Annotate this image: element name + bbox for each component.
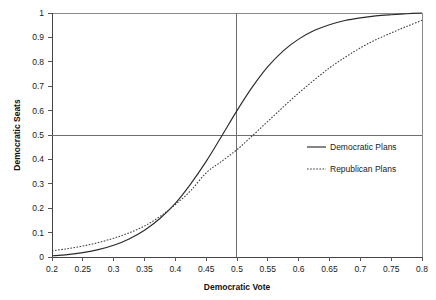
legend-label: Democratic Plans [330,142,397,152]
chart-page: 0 0.1 0.2 0.3 0.4 0.5 0.6 0.7 0.8 0.9 1 [0,0,436,300]
y-tick-label: 0 [39,252,44,262]
legend-item-republican-plans[interactable]: Republican Plans [307,164,396,174]
x-tick-label: 0.7 [354,264,366,274]
y-tick-label: 0.5 [32,130,44,140]
y-tick-label: 0.7 [32,81,44,91]
y-tick-label: 0.9 [32,32,44,42]
x-tick-label: 0.35 [136,264,153,274]
y-tick-label: 0.3 [32,179,44,189]
x-tick-label: 0.45 [198,264,215,274]
series-line-democratic-plans [52,13,422,256]
legend-item-democratic-plans[interactable]: Democratic Plans [307,142,397,152]
x-tick-label: 0.6 [293,264,305,274]
legend-label: Republican Plans [330,164,396,174]
x-tick-label: 0.8 [416,264,428,274]
reference-lines [52,13,422,257]
x-axis-ticks [52,257,422,261]
y-axis-title: Democratic Seats [12,99,22,171]
x-tick-label: 0.75 [383,264,400,274]
y-axis-tick-labels: 0 0.1 0.2 0.3 0.4 0.5 0.6 0.7 0.8 0.9 1 [32,8,44,262]
y-tick-label: 0.2 [32,203,44,213]
x-tick-label: 0.3 [108,264,120,274]
y-tick-label: 0.6 [32,106,44,116]
y-tick-label: 1 [39,8,44,18]
x-tick-label: 0.55 [260,264,277,274]
x-tick-label: 0.5 [231,264,243,274]
x-tick-label: 0.25 [75,264,92,274]
x-tick-label: 0.65 [321,264,338,274]
y-tick-label: 0.1 [32,228,44,238]
y-axis-ticks [48,13,52,257]
x-axis-title: Democratic Vote [204,282,271,292]
x-tick-label: 0.4 [169,264,181,274]
x-tick-label: 0.2 [46,264,58,274]
series-line-republican-plans [52,20,422,251]
x-axis-tick-labels: 0.2 0.25 0.3 0.35 0.4 0.45 0.5 0.55 0.6 … [46,264,428,274]
y-tick-label: 0.8 [32,57,44,67]
line-chart: 0 0.1 0.2 0.3 0.4 0.5 0.6 0.7 0.8 0.9 1 [0,0,436,300]
legend: Democratic Plans Republican Plans [307,142,397,174]
y-tick-label: 0.4 [32,154,44,164]
data-series [52,13,422,256]
